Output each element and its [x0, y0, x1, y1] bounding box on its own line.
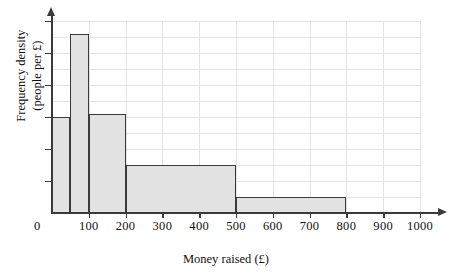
x-axis-tick-label: 800 — [326, 219, 366, 234]
x-axis-tick-label: 600 — [253, 219, 293, 234]
x-axis-title: Money raised (£) — [0, 252, 452, 267]
y-axis-title-line1: Frequency density — [14, 0, 30, 166]
x-axis-tick — [162, 213, 163, 218]
histogram-bar — [70, 34, 88, 213]
histogram-bar — [236, 197, 346, 213]
gridline-horizontal — [52, 37, 420, 38]
x-axis-tick-label: 200 — [106, 219, 146, 234]
gridline-horizontal — [52, 53, 420, 54]
histogram-chart: 1002003004005006007008009001000 0 Money … — [0, 0, 452, 276]
y-axis-tick — [45, 117, 52, 118]
x-axis-tick-label: 700 — [290, 219, 330, 234]
y-axis-tick — [45, 21, 52, 22]
gridline-horizontal — [52, 21, 420, 22]
histogram-bar — [89, 114, 126, 213]
x-axis-tick — [346, 213, 347, 218]
histogram-bar — [126, 165, 236, 213]
x-axis-tick — [89, 213, 90, 218]
gridline-horizontal — [52, 85, 420, 86]
y-axis-arrow-icon — [47, 7, 55, 16]
x-axis-tick — [126, 213, 127, 218]
gridline-vertical — [420, 21, 421, 213]
x-axis-tick — [273, 213, 274, 218]
plot-area — [52, 21, 420, 213]
x-axis-tick-label: 100 — [69, 219, 109, 234]
x-axis-tick — [236, 213, 237, 218]
x-axis-tick-label: 1000 — [400, 219, 440, 234]
x-axis-tick — [199, 213, 200, 218]
gridline-horizontal — [52, 101, 420, 102]
x-axis-tick — [310, 213, 311, 218]
y-axis-title: Frequency density (people per £) — [14, 0, 45, 166]
gridline-horizontal — [52, 69, 420, 70]
x-axis-tick — [383, 213, 384, 218]
x-axis-tick-label: 500 — [216, 219, 256, 234]
histogram-bar — [52, 117, 70, 213]
origin-tick-label: 0 — [34, 219, 40, 234]
x-axis-arrow-icon — [438, 208, 447, 216]
y-axis-tick — [45, 181, 52, 182]
x-axis-tick-label: 900 — [363, 219, 403, 234]
x-axis-tick-label: 300 — [142, 219, 182, 234]
x-axis-tick-label: 400 — [179, 219, 219, 234]
x-axis-tick — [420, 213, 421, 218]
y-axis-tick — [45, 149, 52, 150]
y-axis-tick — [45, 53, 52, 54]
y-axis-title-line2: (people per £) — [30, 0, 46, 166]
y-axis-tick — [45, 85, 52, 86]
